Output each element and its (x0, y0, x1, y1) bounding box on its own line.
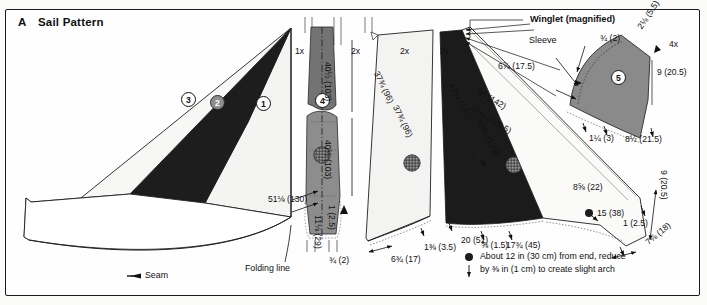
arch-note-line-2: by ⅜ in (1 cm) to create slight arch (480, 263, 615, 275)
quantity-panel-light: 2x (400, 47, 409, 57)
dim-winglet-base: 8½ (21.5) (625, 135, 662, 145)
quantity-winglet: 4x (669, 40, 678, 50)
dim-winglet-offset: 1¼ (3) (589, 134, 614, 144)
arch-note-line-1: About 12 in (30 cm) from end, reduce (480, 250, 626, 262)
sleeve-callout-label: Sleeve (529, 35, 557, 45)
winglet-detail (556, 35, 661, 143)
dim-center-lower: 40½ (103) (322, 140, 332, 179)
part-badge-2: 2 (210, 95, 225, 110)
part-badge-3: 3 (181, 92, 196, 107)
quantity-main-sail: 1x (295, 47, 304, 57)
winglet-callout-label: Winglet (magnified) (530, 14, 615, 24)
seam-legend-marker (127, 274, 141, 279)
dim-right-edge: 9 (20.5) (658, 170, 668, 200)
quantity-panel-dark: 2x (440, 47, 449, 57)
part-badge-1: 1 (256, 96, 271, 111)
dim-dark-foot-b: 15 (38) (597, 209, 624, 219)
dim-center-base: ¾ (2) (329, 256, 349, 266)
dim-light-base: 6¾ (17) (391, 255, 421, 265)
dim-center-taper: 1 (2.5) (326, 205, 336, 230)
dim-center-length: 51⅛ (130) (268, 195, 307, 205)
quantity-mast-sleeve: 2x (351, 47, 360, 57)
dim-winglet-height: 9 (20.5) (657, 68, 687, 78)
legend-seam-label: Seam (145, 270, 168, 280)
legend-folding-line-label: Folding line (245, 263, 290, 273)
dim-winglet-sleeve: ¾ (2) (600, 34, 620, 44)
part-badge-5: 5 (611, 70, 626, 85)
figure-root: A Sail Pattern (0, 0, 707, 305)
dim-dark-foot-a: 8⅝ (22) (573, 183, 603, 193)
dim-center-width: 11⅛ (29) (312, 215, 322, 249)
arch-note-marker (465, 253, 473, 277)
main-sail-assembly (24, 28, 291, 250)
dim-center-upper: 40½ (103) (322, 62, 332, 101)
dim-sleeve-width: 6⅞ (17.5) (498, 62, 535, 72)
dim-center-length-metric (268, 207, 270, 217)
dim-light-offset: 1⅜ (3.5) (424, 243, 456, 253)
dim-right-foot-a: 1 (2.5) (623, 219, 648, 229)
